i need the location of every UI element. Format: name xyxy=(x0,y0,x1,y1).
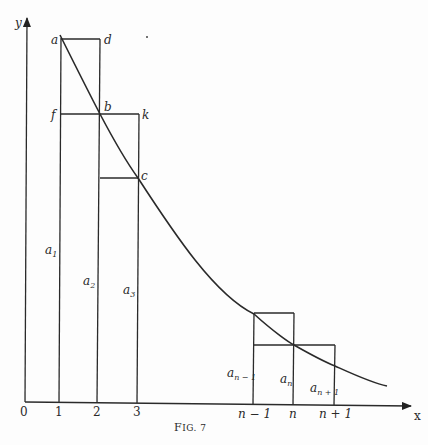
term-a3: a3 xyxy=(123,284,135,299)
x-tick-3: 3 xyxy=(133,406,141,418)
x-axis xyxy=(25,402,411,406)
term-an-plus-1: an + 1 xyxy=(310,382,339,397)
term-an: an xyxy=(280,373,292,388)
x-tick-n-plus-1: n + 1 xyxy=(319,408,352,420)
origin-label: 0 xyxy=(20,406,28,418)
decreasing-curve xyxy=(60,35,387,386)
point-k-label: k xyxy=(142,109,149,121)
figure-caption: FIG. 7 xyxy=(174,421,207,434)
x-tick-1: 1 xyxy=(55,406,63,418)
figure-canvas: y x 0 1 2 3 n − 1 n n + 1 a d b f k c a1… xyxy=(0,0,428,445)
x-tick-n-minus-1: n − 1 xyxy=(238,408,271,420)
point-c-label: c xyxy=(141,170,148,182)
term-an-minus-1: an − 1 xyxy=(227,367,256,382)
term-a1: a1 xyxy=(45,244,57,259)
y-axis xyxy=(25,18,27,402)
x-tick-2: 2 xyxy=(93,406,101,418)
x-tick-n: n xyxy=(289,408,297,420)
point-b-label: b xyxy=(104,101,112,113)
term-a2: a2 xyxy=(83,275,95,290)
point-f-label: f xyxy=(51,109,55,121)
point-d-label: d xyxy=(104,34,112,46)
diagram-graphics xyxy=(0,0,428,445)
point-a-label: a xyxy=(51,34,58,46)
x-axis-label: x xyxy=(414,410,421,422)
stray-dot xyxy=(146,36,148,38)
y-axis-label: y xyxy=(15,17,22,29)
